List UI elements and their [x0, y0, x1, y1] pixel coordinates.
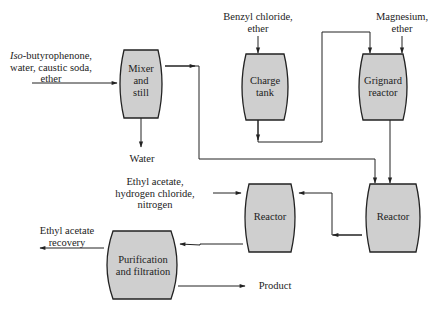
- label-feed-mixer: Iso-butyrophenone, water, caustic soda, …: [6, 50, 96, 85]
- unit-label-reactor-middle: Reactor: [243, 210, 297, 224]
- label-benzyl-chloride: Benzyl chloride, ether: [218, 11, 298, 34]
- stream-reactor-to-reactor: [299, 193, 362, 235]
- unit-label-mixer: Mixer and still: [118, 58, 164, 104]
- stream-reactor-to-purification: [180, 244, 243, 245]
- unit-label-grignard: Grignard reactor: [357, 70, 409, 104]
- unit-label-reactor-right: Reactor: [364, 210, 422, 224]
- label-product: Product: [257, 280, 293, 292]
- unit-label-purification: Purification and filtration: [104, 252, 182, 280]
- unit-label-charge-tank: Charge tank: [240, 70, 290, 104]
- label-water: Water: [126, 153, 158, 165]
- label-ethyl-acetate-feed: Ethyl acetate, hydrogen chloride, nitrog…: [110, 176, 200, 211]
- label-magnesium: Magnesium, ether: [372, 11, 432, 34]
- label-ethyl-recovery: Ethyl acetate recovery: [36, 225, 98, 248]
- flow-diagram-canvas: [0, 0, 434, 310]
